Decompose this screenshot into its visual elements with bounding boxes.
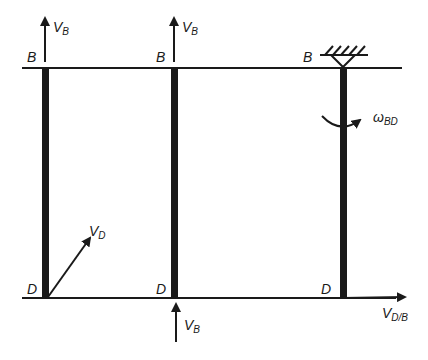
v-d-arrow xyxy=(48,238,90,297)
label-vb-middle: VB xyxy=(182,19,198,37)
label-d-right: D xyxy=(321,281,331,297)
label-b-right: B xyxy=(303,49,312,65)
label-d-middle: D xyxy=(156,281,166,297)
fixed-pin-icon xyxy=(320,46,368,67)
label-vdb: VD/B xyxy=(382,305,408,323)
bar-bd-middle xyxy=(171,68,178,298)
label-vb-left: VB xyxy=(53,19,69,37)
label-omega-bd: ωBD xyxy=(373,109,398,127)
label-d-left: D xyxy=(27,281,37,297)
label-vb-bottom: VB xyxy=(184,317,200,335)
label-vd: VD xyxy=(89,223,106,241)
rigid-body-velocity-diagram: B B B D D D VB VB VB VD ωBD VD/B xyxy=(0,0,428,360)
label-b-middle: B xyxy=(156,49,165,65)
v-db-arrow xyxy=(343,297,405,298)
bar-bd-right xyxy=(340,68,347,298)
diagram-canvas: B B B D D D VB VB VB VD ωBD VD/B xyxy=(0,0,428,360)
bar-bd-left xyxy=(42,68,49,298)
label-b-left: B xyxy=(27,49,36,65)
